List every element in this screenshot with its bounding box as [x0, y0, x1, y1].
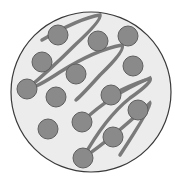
diagram-canvas	[0, 0, 175, 188]
particle-dot	[17, 79, 37, 99]
particle-dot	[72, 112, 92, 132]
particle-dot	[128, 100, 148, 120]
particle-dot	[88, 31, 108, 51]
particle-dot	[101, 85, 121, 105]
particle-dot	[66, 64, 86, 84]
particle-dot	[32, 52, 52, 72]
particle-dot	[48, 25, 68, 45]
particle-dot	[73, 148, 93, 168]
particle-dot	[46, 87, 66, 107]
cell-diagram	[0, 0, 175, 188]
particle-dot	[38, 119, 58, 139]
particle-dot	[123, 56, 143, 76]
particle-dot	[118, 26, 138, 46]
particle-dot	[103, 127, 123, 147]
